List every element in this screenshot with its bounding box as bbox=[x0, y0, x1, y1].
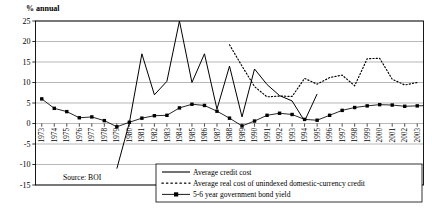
data-point-marker bbox=[140, 116, 143, 119]
data-point-marker bbox=[178, 106, 181, 109]
data-point-marker bbox=[128, 121, 131, 124]
x-axis-tick-label: 1988 bbox=[226, 128, 234, 143]
x-axis-tick-label: 1976 bbox=[76, 128, 84, 143]
data-point-marker bbox=[315, 119, 318, 122]
x-axis-tick-label: 1994 bbox=[301, 128, 309, 143]
data-point-marker bbox=[215, 110, 218, 113]
series-line-dotted bbox=[230, 45, 418, 97]
y-axis-tick-label: -15 bbox=[20, 181, 31, 190]
data-point-marker bbox=[416, 104, 419, 107]
series-average-credit-cost bbox=[117, 21, 317, 169]
data-point-marker bbox=[303, 118, 306, 121]
y-axis-tick-label: 15 bbox=[23, 58, 31, 67]
x-axis-tick-label: 2003 bbox=[414, 128, 422, 143]
y-axis-tick-label: -5 bbox=[24, 140, 31, 149]
x-axis-tick-label: 1998 bbox=[351, 128, 359, 143]
x-axis-tick-label: 1984 bbox=[176, 128, 184, 143]
x-axis-tick-label: 2001 bbox=[389, 128, 397, 143]
data-point-marker bbox=[428, 104, 431, 107]
y-axis-tick-label: 20 bbox=[23, 37, 31, 46]
data-point-marker bbox=[365, 104, 368, 107]
data-point-marker bbox=[190, 103, 193, 106]
x-axis-tick-label: 1975 bbox=[63, 128, 71, 143]
data-point-marker bbox=[65, 110, 68, 113]
data-point-marker bbox=[240, 124, 243, 127]
series-line-solid bbox=[117, 21, 317, 169]
x-axis-tick-label: 1996 bbox=[326, 128, 334, 143]
x-axis-tick-label: 1997 bbox=[339, 128, 347, 143]
x-axis-tick-label: 1991 bbox=[264, 128, 272, 143]
x-axis-tick-label: 1990 bbox=[251, 128, 259, 143]
x-axis-tick-label: 1999 bbox=[364, 128, 372, 143]
x-axis-tick-label: 1982 bbox=[151, 128, 159, 143]
data-point-marker bbox=[378, 103, 381, 106]
y-axis-tick-label: 5 bbox=[27, 99, 31, 108]
data-point-marker bbox=[203, 104, 206, 107]
data-point-marker bbox=[103, 119, 106, 122]
x-axis-tick-label: 1992 bbox=[276, 128, 284, 143]
x-axis-tick-label: 1983 bbox=[164, 128, 172, 143]
y-axis-tick-label: 25 bbox=[23, 17, 31, 26]
data-point-marker bbox=[290, 113, 293, 116]
data-point-marker bbox=[165, 114, 168, 117]
x-axis-tick-label: 1979 bbox=[113, 128, 121, 143]
data-point-marker bbox=[153, 114, 156, 117]
x-axis-tick-label: 2000 bbox=[376, 128, 384, 143]
data-point-marker bbox=[353, 106, 356, 109]
data-point-marker bbox=[265, 114, 268, 117]
y-axis-tick-label: 10 bbox=[23, 78, 31, 87]
chart-canvas: 2520151050-5-10-151973197419751976197719… bbox=[0, 0, 432, 217]
data-point-marker bbox=[328, 114, 331, 117]
data-point-marker bbox=[115, 125, 118, 128]
data-point-marker bbox=[40, 97, 43, 100]
x-axis-tick-label: 1985 bbox=[189, 128, 197, 143]
data-point-marker bbox=[53, 107, 56, 110]
data-point-marker bbox=[278, 112, 281, 115]
legend-swatch-marker bbox=[174, 192, 178, 196]
x-axis-tick-label: 1987 bbox=[214, 128, 222, 143]
x-axis-tick-label: 2002 bbox=[401, 128, 409, 143]
legend-item-label: Average credit cost bbox=[193, 168, 252, 177]
x-axis-tick-label: 1989 bbox=[239, 128, 247, 143]
y-axis-tick-label: 0 bbox=[27, 119, 31, 128]
data-point-marker bbox=[78, 116, 81, 119]
x-axis-tick-label: 1977 bbox=[88, 128, 96, 143]
x-axis-tick-label: 1993 bbox=[289, 128, 297, 143]
x-axis-tick-label: 1973 bbox=[38, 128, 46, 143]
data-point-marker bbox=[403, 105, 406, 108]
y-axis-tick-label: -10 bbox=[20, 160, 31, 169]
x-axis-tick-label: 1974 bbox=[51, 128, 59, 143]
legend-item-label: 5-6 year government bond yield bbox=[193, 190, 291, 199]
x-axis-tick-label: 1978 bbox=[101, 128, 109, 143]
data-point-marker bbox=[90, 115, 93, 118]
data-point-marker bbox=[228, 116, 231, 119]
data-point-marker bbox=[253, 119, 256, 122]
x-axis-tick-label: 1986 bbox=[201, 128, 209, 143]
x-axis-tick-label: 1981 bbox=[138, 128, 146, 143]
source-note: Source: BOI bbox=[63, 173, 102, 182]
data-point-marker bbox=[340, 109, 343, 112]
data-point-marker bbox=[391, 103, 394, 106]
legend-item-label: Average real cost of unindexed domestic-… bbox=[193, 179, 366, 188]
series-average-real-cost bbox=[230, 45, 418, 97]
x-axis-tick-label: 1995 bbox=[314, 128, 322, 143]
chart-figure: % annual 2520151050-5-10-151973197419751… bbox=[0, 0, 432, 217]
